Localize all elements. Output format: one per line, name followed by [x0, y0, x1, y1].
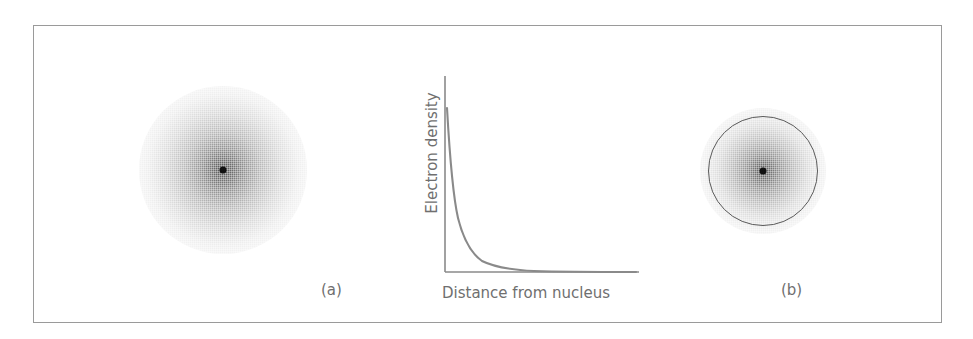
electron-density-plot: Electron density Distance from nucleus: [404, 66, 654, 321]
figure-frame: (a) Electron density Distance from nucle…: [33, 25, 942, 323]
panel-label-b: (b): [781, 281, 802, 299]
panel-label-a: (a): [321, 281, 342, 299]
density-curve: [447, 108, 636, 272]
plot-svg: [404, 66, 654, 281]
nucleus-dot-b: [760, 168, 767, 175]
panel-b: (b): [634, 26, 943, 322]
y-axis-label: Electron density: [423, 73, 441, 233]
panel-a: (a): [34, 26, 364, 322]
x-axis-label: Distance from nucleus: [442, 284, 610, 302]
nucleus-dot-a: [220, 167, 227, 174]
